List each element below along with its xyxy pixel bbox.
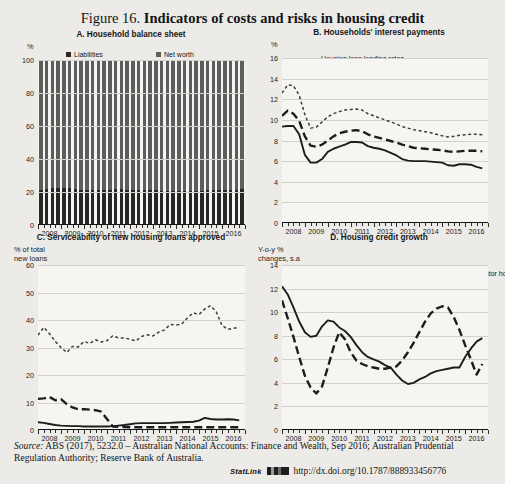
axis-tick-mark — [385, 223, 386, 226]
bar-segment-net-worth — [51, 60, 55, 188]
statlink-row: StatLinkhttp://dx.doi.org/10.1787/888933… — [230, 466, 446, 476]
series-line-owner-occupier-housing — [282, 286, 482, 384]
axis-tick-mark — [153, 225, 154, 229]
legend-label-net-worth: Net worth — [164, 50, 194, 59]
bar-segment-liabilities — [166, 191, 170, 225]
axis-tick-mark — [448, 223, 449, 226]
panel-c-serviceability: C. Serviceability of new housing loans a… — [6, 233, 256, 433]
y-axis-tick-label: 30 — [12, 344, 34, 353]
axis-tick-mark — [113, 430, 114, 433]
axis-tick-mark — [437, 223, 438, 226]
axis-tick-mark — [245, 430, 246, 434]
axis-tick-mark — [228, 225, 229, 228]
axis-tick-mark — [234, 225, 235, 228]
bar-segment-liabilities — [114, 189, 118, 225]
axis-tick-mark — [471, 430, 472, 433]
axis-tick-mark — [414, 223, 415, 226]
bar-segment-net-worth — [120, 60, 124, 189]
axis-tick-mark — [193, 430, 194, 433]
y-axis-tick-label: 0 — [12, 221, 34, 230]
statlink-url[interactable]: http://dx.doi.org/10.1787/888933456776 — [294, 466, 447, 476]
axis-tick-mark — [334, 223, 335, 226]
panel-a-household-balance-sheet: A. Household balance sheet % Liabilities… — [6, 30, 256, 225]
axis-tick-mark — [101, 430, 102, 433]
axis-tick-mark — [38, 225, 39, 229]
panel-b-title: B. Households' interest payments — [256, 28, 502, 37]
axis-tick-mark — [282, 223, 283, 227]
bar-segment-liabilities — [45, 189, 49, 225]
axis-tick-mark — [391, 223, 392, 226]
bar-segment-net-worth — [143, 60, 147, 190]
axis-tick-mark — [182, 430, 183, 433]
figure-number: Figure 16. — [81, 10, 141, 26]
y-axis-tick-label: 0 — [256, 219, 278, 228]
axis-tick-mark — [44, 430, 45, 433]
panel-d-housing-credit-growth: D. Housing credit growth Y-o-y %changes,… — [256, 233, 502, 433]
y-axis-tick-label: 14 — [256, 75, 278, 84]
y-axis-tick-label: 8 — [256, 332, 278, 341]
y-axis-tick-label: 10 — [12, 399, 34, 408]
axis-tick-mark — [119, 430, 120, 433]
bar-segment-net-worth — [223, 60, 227, 190]
axis-tick-mark — [188, 430, 189, 433]
axis-tick-mark — [408, 430, 409, 433]
y-axis-tick-label: 60 — [12, 261, 34, 270]
series-canvas — [282, 265, 488, 430]
bar-segment-liabilities — [143, 190, 147, 225]
axis-tick-mark — [454, 430, 455, 433]
series-canvas — [38, 265, 245, 430]
axis-tick-mark — [374, 430, 375, 434]
bar-segment-liabilities — [56, 188, 60, 225]
cut-off-text-line — [14, 0, 494, 10]
bar-segment-liabilities — [85, 190, 89, 225]
series-line-interest-payments-to-disposable-income-housing — [282, 111, 482, 152]
panel-d-plot — [282, 265, 488, 430]
axis-tick-mark — [107, 430, 108, 434]
axis-tick-mark — [170, 225, 171, 228]
bar-segment-liabilities — [212, 190, 216, 225]
axis-tick-mark — [402, 430, 403, 433]
bar-segment-net-worth — [131, 60, 135, 190]
figure-title: Figure 16. Indicators of costs and risks… — [0, 10, 505, 27]
axis-tick-mark — [288, 223, 289, 226]
y-axis-tick-label: 0 — [12, 426, 34, 435]
axis-tick-mark — [351, 430, 352, 434]
axis-tick-mark — [442, 223, 443, 227]
axis-tick-mark — [50, 225, 51, 228]
panel-d-title: D. Housing credit growth — [256, 233, 502, 242]
y-axis-tick-label: 60 — [12, 122, 34, 131]
axis-tick-mark — [477, 430, 478, 433]
axis-tick-mark — [311, 223, 312, 226]
axis-tick-mark — [334, 430, 335, 433]
bar-segment-net-worth — [56, 60, 60, 188]
axis-tick-mark — [465, 223, 466, 227]
bar-segment-liabilities — [240, 189, 244, 225]
bar-segment-liabilities — [68, 188, 72, 225]
axis-tick-mark — [44, 225, 45, 228]
legend-label-liabilities: Liabilities — [74, 50, 103, 59]
axis-tick-mark — [431, 223, 432, 226]
panel-b-plot — [282, 58, 488, 223]
bar-segment-net-worth — [114, 60, 118, 189]
axis-tick-mark — [396, 430, 397, 434]
bar-segment-liabilities — [235, 190, 239, 225]
axis-tick-mark — [113, 225, 114, 228]
axis-tick-mark — [199, 225, 200, 229]
series-canvas — [282, 58, 488, 223]
axis-tick-mark — [459, 430, 460, 433]
axis-tick-mark — [228, 430, 229, 433]
gridline — [38, 60, 245, 61]
axis-tick-mark — [142, 225, 143, 228]
bar-segment-liabilities — [229, 190, 233, 225]
legend-swatch-liabilities — [66, 52, 71, 57]
bar-segment-liabilities — [131, 190, 135, 225]
axis-tick-mark — [442, 430, 443, 434]
bar-segment-liabilities — [223, 190, 227, 225]
source-label: Source: — [14, 440, 43, 451]
axis-tick-mark — [50, 430, 51, 433]
bar-segment-net-worth — [108, 60, 112, 190]
axis-tick-mark — [488, 223, 489, 227]
axis-tick-mark — [159, 430, 160, 433]
bar-segment-liabilities — [189, 191, 193, 225]
axis-tick-mark — [477, 223, 478, 226]
